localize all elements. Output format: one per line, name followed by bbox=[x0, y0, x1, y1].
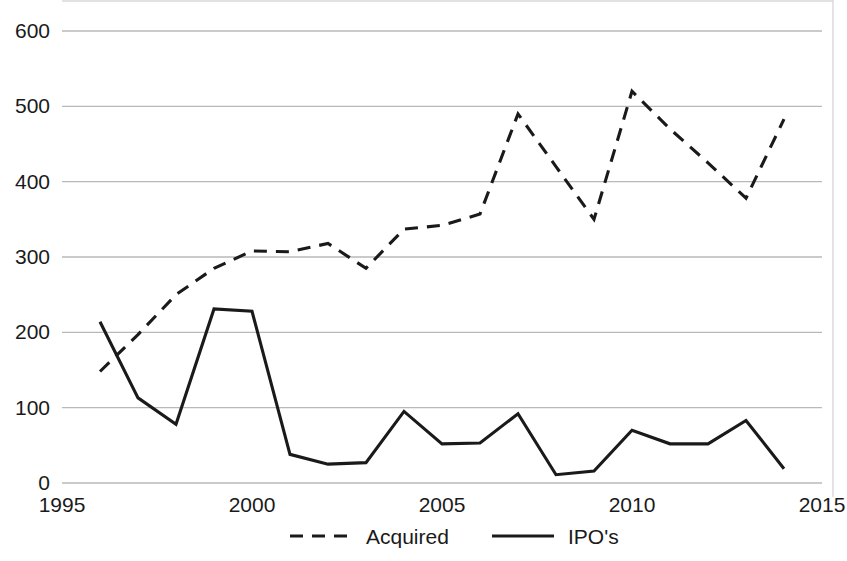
legend-label: IPO's bbox=[568, 525, 619, 548]
x-tick-label: 2005 bbox=[419, 493, 466, 516]
y-tick-label: 200 bbox=[15, 320, 50, 343]
chart-figure: 0100200300400500600 19952000200520102015… bbox=[0, 0, 847, 561]
y-tick-label: 0 bbox=[38, 471, 50, 494]
x-tick-label: 2015 bbox=[799, 493, 846, 516]
y-tick-label: 300 bbox=[15, 245, 50, 268]
x-tick-label: 1995 bbox=[39, 493, 86, 516]
y-tick-label: 400 bbox=[15, 170, 50, 193]
line-chart: 0100200300400500600 19952000200520102015… bbox=[0, 0, 847, 561]
chart-background bbox=[0, 0, 847, 561]
y-tick-label: 600 bbox=[15, 19, 50, 42]
legend-label: Acquired bbox=[366, 525, 449, 548]
x-tick-label: 2010 bbox=[609, 493, 656, 516]
y-tick-label: 500 bbox=[15, 94, 50, 117]
y-tick-label: 100 bbox=[15, 396, 50, 419]
x-tick-label: 2000 bbox=[229, 493, 276, 516]
